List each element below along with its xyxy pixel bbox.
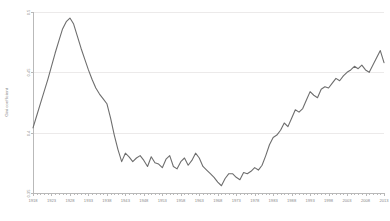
- x-tick-label: 1963: [195, 198, 205, 203]
- x-tick-label: 1943: [121, 198, 131, 203]
- series-line-gini-coefficient: [33, 18, 384, 186]
- x-tick-label: 1978: [250, 198, 260, 203]
- gini-coefficient-line-chart: 0.350.40.450.519181923192819331938194319…: [0, 0, 390, 221]
- x-tick-label: 2003: [342, 198, 352, 203]
- x-tick-label: 2013: [379, 198, 389, 203]
- x-tick-label: 1928: [65, 198, 75, 203]
- x-tick-label: 1998: [324, 198, 334, 203]
- y-tick-label: 0.5: [26, 9, 31, 15]
- x-tick-label: 1958: [176, 198, 186, 203]
- x-tick-label: 1983: [269, 198, 279, 203]
- x-tick-label: 1933: [84, 198, 94, 203]
- x-tick-label: 1948: [139, 198, 149, 203]
- x-tick-label: 1938: [102, 198, 112, 203]
- x-tick-label: 1923: [47, 198, 57, 203]
- x-tick-label: 1973: [232, 198, 242, 203]
- y-tick-label: 0.45: [26, 68, 31, 77]
- y-axis-title: Gini coefficient: [4, 87, 9, 116]
- y-tick-label: 0.4: [26, 130, 31, 136]
- x-tick-label: 1918: [28, 198, 38, 203]
- x-tick-label: 2008: [361, 198, 371, 203]
- chart-canvas: 0.350.40.450.519181923192819331938194319…: [0, 0, 390, 221]
- x-tick-label: 1968: [213, 198, 223, 203]
- y-tick-label: 0.35: [26, 189, 31, 198]
- x-tick-label: 1993: [306, 198, 316, 203]
- x-tick-label: 1988: [287, 198, 297, 203]
- x-tick-label: 1953: [158, 198, 168, 203]
